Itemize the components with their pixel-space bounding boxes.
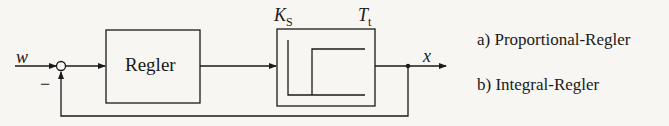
deadtime-label: Tt: [358, 5, 371, 30]
summing-junction: [57, 62, 66, 71]
gain-label: KS: [274, 5, 293, 30]
option-proportional: a) Proportional-Regler: [477, 30, 630, 50]
option-integral: b) Integral-Regler: [477, 75, 599, 95]
feedback-line: [61, 66, 408, 116]
output-signal-label: x: [423, 46, 431, 67]
feedback-sign-label: −: [40, 74, 50, 95]
deadtime-step-response-icon: [288, 40, 365, 95]
branch-node: [406, 64, 410, 68]
block-diagram: [0, 0, 669, 126]
controller-label: Regler: [125, 54, 176, 76]
input-signal-label: w: [16, 47, 28, 68]
